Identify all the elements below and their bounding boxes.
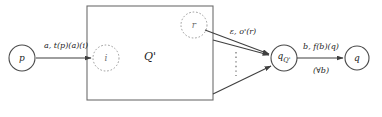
edge-label-p-to-i: a, t(p)(a)(i) <box>44 42 88 50</box>
transition-diagram: p i r qQ' q Q' a, t(p)(a)(i) ε, o'(r) b,… <box>0 0 382 117</box>
edge-sublabel-q-sub-Qprime-to-q: (∀b) <box>313 67 329 75</box>
node-label-i: i <box>105 54 108 63</box>
node-label-q-sub-Qprime: qQ' <box>278 52 291 63</box>
edge-region-bottom-to-q-sub-Qprime <box>213 66 271 94</box>
node-label-q: q <box>354 54 360 63</box>
node-label-p: p <box>19 54 25 63</box>
edge-label-q-sub-Qprime-to-q: b, f(b)(q) <box>303 43 339 51</box>
node-label-r: r <box>192 21 196 30</box>
diagram-canvas <box>0 0 382 117</box>
edge-region-mid-to-q-sub-Qprime <box>213 40 269 55</box>
edge-label-r-to-q-sub-Qprime: ε, o'(r) <box>230 28 256 36</box>
region-label-Q-prime: Q' <box>144 51 156 62</box>
